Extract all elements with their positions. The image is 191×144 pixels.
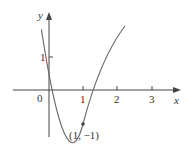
x-tick-label-3: 3 [149,93,155,105]
vertex-point [81,122,85,126]
y-axis-arrow-icon [46,12,52,20]
parabola-graph: y x 0 1 2 3 1 (1, −1) [0,0,191,144]
x-tick-label-2: 2 [114,93,120,105]
vertex-label: (1, −1) [69,129,99,142]
y-axis-label: y [37,9,43,21]
y-tick-label-1: 1 [40,51,46,63]
x-tick-label-1: 1 [80,93,86,105]
x-axis-label: x [173,94,179,106]
origin-label: 0 [37,92,43,104]
x-axis-arrow-icon [173,87,181,93]
